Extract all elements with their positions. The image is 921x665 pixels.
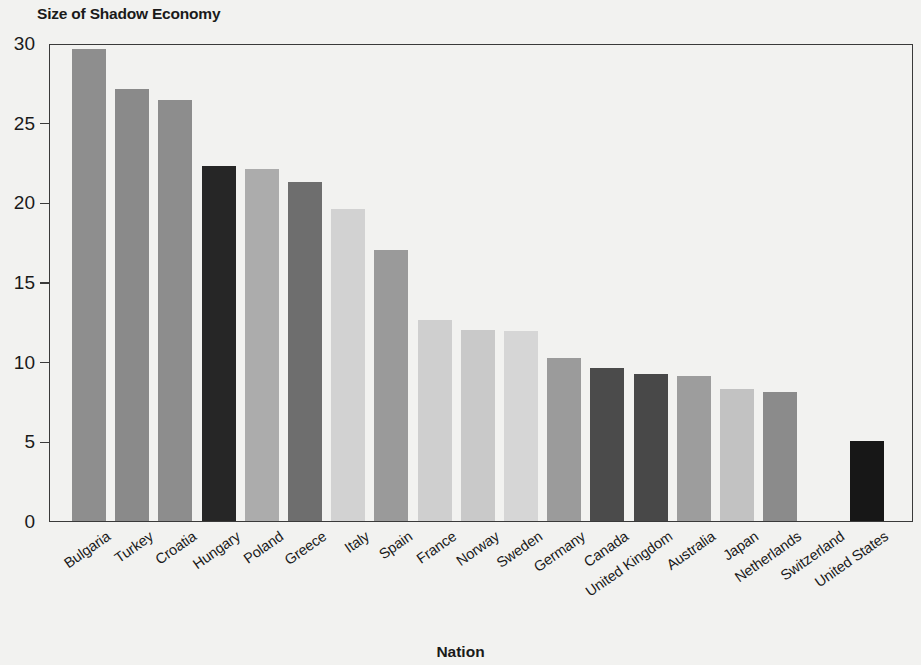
x-tick-label-hungary: Hungary — [189, 528, 243, 572]
y-tick-label: 30 — [14, 33, 35, 55]
x-tick-label-greece: Greece — [282, 528, 330, 568]
y-tick-mark — [40, 203, 49, 205]
x-tick-label-italy: Italy — [342, 528, 373, 556]
bar-france — [418, 320, 452, 521]
bar-netherlands — [763, 392, 797, 521]
y-tick-label: 25 — [14, 113, 35, 135]
x-tick-label-bulgaria: Bulgaria — [61, 528, 113, 571]
bar-norway — [461, 330, 495, 521]
y-tick-mark — [40, 362, 49, 364]
x-tick-label-france: France — [413, 528, 459, 567]
bar-australia — [677, 376, 711, 521]
x-tick-label-spain: Spain — [376, 528, 415, 562]
y-tick-mark — [40, 282, 49, 284]
bar-japan — [720, 389, 754, 521]
bar-italy — [331, 209, 365, 521]
y-tick-mark — [40, 442, 49, 444]
bar-united-states — [850, 441, 884, 521]
bar-united-kingdom — [634, 374, 668, 521]
bar-greece — [288, 182, 322, 521]
chart-figure: Size of Shadow Economy 051015202530 Bulg… — [0, 0, 921, 665]
plot-area — [49, 44, 913, 522]
bar-poland — [245, 169, 279, 521]
y-tick-label: 5 — [24, 431, 35, 453]
bar-sweden — [504, 331, 538, 521]
x-tick-label-poland: Poland — [240, 528, 286, 567]
x-tick-label-norway: Norway — [453, 528, 502, 569]
x-axis: BulgariaTurkeyCroatiaHungaryPolandGreece… — [0, 522, 921, 642]
y-tick-label: 15 — [14, 272, 35, 294]
y-tick-label: 20 — [14, 192, 35, 214]
bars-layer — [50, 45, 912, 521]
y-tick-label: 10 — [14, 352, 35, 374]
y-tick-mark — [40, 123, 49, 125]
bar-hungary — [202, 166, 236, 521]
bar-bulgaria — [72, 49, 106, 521]
bar-croatia — [158, 100, 192, 521]
x-tick-label-turkey: Turkey — [112, 528, 157, 566]
chart-title: Size of Shadow Economy — [37, 5, 220, 23]
bar-canada — [590, 368, 624, 521]
x-axis-title: Nation — [0, 643, 921, 661]
bar-germany — [547, 358, 581, 521]
bar-turkey — [115, 89, 149, 521]
bar-spain — [374, 250, 408, 521]
